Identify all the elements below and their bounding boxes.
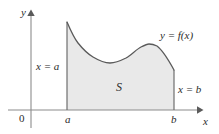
function-label: y = f(x) — [160, 30, 193, 41]
left-boundary-label: x = a — [36, 61, 59, 72]
area-under-curve-figure: y x 0 a b x = a x = b S y = f(x) — [0, 0, 219, 134]
right-boundary-label: x = b — [178, 84, 201, 95]
x-tick-label-a: a — [65, 114, 71, 125]
y-axis-label: y — [21, 7, 26, 18]
figure-canvas — [0, 0, 219, 134]
y-axis-arrowhead — [27, 10, 34, 17]
x-tick-label-b: b — [171, 114, 177, 125]
region-label-s: S — [116, 81, 122, 93]
shaded-region-s — [67, 22, 174, 110]
x-axis-label: x — [203, 116, 208, 127]
origin-label: 0 — [19, 113, 25, 124]
x-axis-arrowhead — [197, 106, 204, 114]
